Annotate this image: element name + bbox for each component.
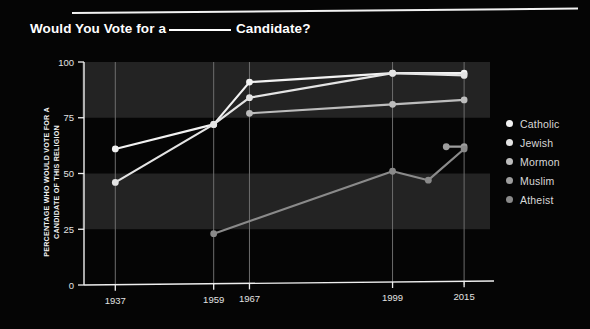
data-point-catholic-1967[interactable] [246, 79, 253, 86]
data-point-jewish-2015[interactable] [461, 72, 468, 79]
data-point-jewish-1999[interactable] [389, 70, 396, 77]
legend-item-mormon[interactable]: Mormon [506, 152, 590, 171]
data-point-mormon-2015[interactable] [461, 97, 468, 104]
x-tick-label-1959: 1959 [203, 294, 224, 305]
data-point-jewish-1959[interactable] [210, 121, 217, 128]
legend-item-muslim[interactable]: Muslim [506, 171, 590, 190]
data-point-mormon-1967[interactable] [246, 110, 253, 117]
y-tick-label-50: 50 [63, 168, 74, 179]
legend-item-jewish[interactable]: Jewish [506, 133, 590, 152]
legend-item-atheist[interactable]: Atheist [506, 190, 590, 209]
plot-area: 025507510019371959196719992015 [0, 0, 590, 329]
x-axis-line [84, 281, 494, 285]
legend-dot-icon [506, 139, 513, 146]
x-tick-label-1999: 1999 [382, 292, 403, 303]
data-point-catholic-1937[interactable] [112, 146, 119, 153]
y-tick-label-0: 0 [69, 280, 74, 291]
y-tick-label-100: 100 [58, 57, 74, 68]
legend-item-label: Mormon [520, 156, 560, 168]
legend-dot-icon [506, 120, 513, 127]
legend-dot-icon [506, 158, 513, 165]
legend: CatholicJewishMormonMuslimAtheist [506, 114, 590, 209]
line-chart: 025507510019371959196719992015 [0, 0, 590, 329]
legend-item-label: Jewish [520, 137, 553, 149]
x-tick-label-1937: 1937 [105, 295, 126, 306]
x-tick-label-1967: 1967 [239, 293, 260, 304]
chart-screenshot: Would You Vote for aCandidate? 025507510… [0, 0, 590, 329]
data-point-jewish-1967[interactable] [246, 94, 253, 101]
grid-band-0 [82, 62, 490, 118]
data-point-atheist-1999[interactable] [389, 168, 396, 175]
y-tick-label-25: 25 [63, 224, 74, 235]
x-tick-label-2015: 2015 [454, 291, 475, 302]
data-point-atheist-2007[interactable] [425, 177, 432, 184]
data-point-atheist-1959[interactable] [210, 230, 217, 237]
legend-dot-icon [506, 177, 513, 184]
legend-item-label: Muslim [520, 175, 554, 187]
legend-dot-icon [506, 196, 513, 203]
legend-item-label: Atheist [520, 194, 554, 206]
data-point-atheist-2015[interactable] [461, 146, 468, 153]
y-tick-label-75: 75 [63, 112, 74, 123]
data-point-jewish-1937[interactable] [112, 179, 119, 186]
legend-item-label: Catholic [520, 118, 560, 130]
data-point-muslim-2011[interactable] [443, 143, 450, 150]
data-point-mormon-1999[interactable] [389, 101, 396, 108]
legend-item-catholic[interactable]: Catholic [506, 114, 590, 133]
